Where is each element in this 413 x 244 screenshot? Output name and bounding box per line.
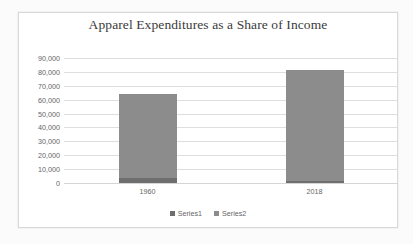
y-axis-tick-label: 30,000 bbox=[20, 137, 64, 146]
gridline bbox=[64, 58, 398, 59]
gridline bbox=[64, 155, 398, 156]
y-axis-tick-label: 0 bbox=[20, 179, 64, 188]
chart-frame: Apparel Expenditures as a Share of Incom… bbox=[18, 12, 398, 228]
y-axis-tick-label: 80,000 bbox=[20, 67, 64, 76]
x-axis-tick-label: 2018 bbox=[307, 187, 323, 196]
gridline bbox=[64, 141, 398, 142]
bar-segment-series2[interactable] bbox=[286, 70, 344, 182]
legend-item-series1[interactable]: Series1 bbox=[170, 209, 202, 218]
bar-segment-series1[interactable] bbox=[286, 181, 344, 183]
y-axis-tick-label: 60,000 bbox=[20, 95, 64, 104]
y-axis-tick-label: 90,000 bbox=[20, 54, 64, 63]
legend-item-series2[interactable]: Series2 bbox=[214, 209, 246, 218]
x-axis-tick-labels: 19602018 bbox=[64, 187, 398, 201]
x-axis-tick-label: 1960 bbox=[140, 187, 156, 196]
y-axis-tick-labels: 010,00020,00030,00040,00050,00060,00070,… bbox=[19, 58, 64, 183]
y-axis-tick-label: 70,000 bbox=[20, 81, 64, 90]
gridline bbox=[64, 169, 398, 170]
chart-legend: Series1Series2 bbox=[19, 209, 397, 218]
y-axis-tick-label: 10,000 bbox=[20, 165, 64, 174]
bar-segment-series2[interactable] bbox=[119, 94, 177, 178]
gridline bbox=[64, 127, 398, 128]
gridline bbox=[64, 86, 398, 87]
bar-segment-series1[interactable] bbox=[119, 178, 177, 183]
gridline bbox=[64, 114, 398, 115]
y-axis-tick-label: 20,000 bbox=[20, 151, 64, 160]
y-axis-tick-label: 50,000 bbox=[20, 109, 64, 118]
y-axis-tick-label: 40,000 bbox=[20, 123, 64, 132]
legend-label: Series2 bbox=[222, 209, 246, 218]
gridline bbox=[64, 100, 398, 101]
plot-area bbox=[64, 58, 398, 183]
bar-column[interactable] bbox=[286, 70, 344, 183]
legend-swatch-icon bbox=[214, 211, 219, 216]
chart-title: Apparel Expenditures as a Share of Incom… bbox=[19, 17, 397, 33]
legend-swatch-icon bbox=[170, 211, 175, 216]
gridline bbox=[64, 183, 398, 184]
bar-column[interactable] bbox=[119, 94, 177, 183]
gridline bbox=[64, 72, 398, 73]
legend-label: Series1 bbox=[178, 209, 202, 218]
